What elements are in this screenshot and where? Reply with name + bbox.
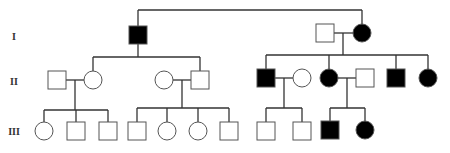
generation-label-2: II [10,76,18,87]
affected-male-iii-10 [321,121,339,139]
affected-female-ii-10 [419,69,437,87]
unaffected-female-iii-1 [35,122,53,140]
unaffected-male-i-2 [316,24,334,42]
affected-male-i-1 [129,26,147,44]
affected-female-ii-7 [320,69,338,87]
generation-label-1: I [12,31,16,42]
unaffected-male-iii-9 [293,122,311,140]
unaffected-female-iii-6 [189,122,207,140]
unaffected-male-iii-7 [220,122,238,140]
unaffected-male-ii-1 [48,71,66,89]
affected-female-i-3 [353,24,371,42]
unaffected-male-ii-4 [191,71,209,89]
unaffected-female-iii-5 [158,122,176,140]
unaffected-female-ii-6 [293,69,311,87]
affected-male-ii-9 [387,69,405,87]
unaffected-male-iii-3 [99,122,117,140]
unaffected-male-iii-4 [128,122,146,140]
unaffected-male-iii-8 [257,122,275,140]
generation-labels: I II III [8,31,20,137]
pedigree-lines [44,10,428,122]
affected-female-iii-11 [356,121,374,139]
generation-label-3: III [8,126,20,137]
unaffected-male-iii-2 [67,122,85,140]
pedigree-chart: I II III [0,0,450,153]
pedigree-symbols [35,24,437,140]
unaffected-female-ii-3 [155,71,173,89]
affected-male-ii-5 [257,69,275,87]
unaffected-male-ii-8 [356,69,374,87]
unaffected-female-ii-2 [84,71,102,89]
